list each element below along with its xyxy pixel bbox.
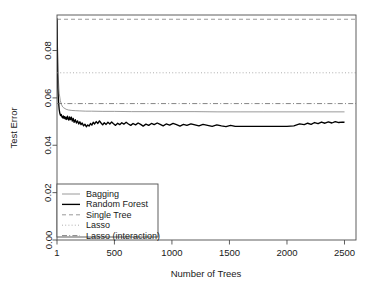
- x-tick-label: 1: [54, 247, 59, 258]
- y-axis-title: Test Error: [8, 107, 19, 148]
- legend-label: Random Forest: [86, 199, 149, 209]
- test-error-vs-trees-chart: 15001000150020002500 0.000.020.040.060.0…: [0, 0, 368, 294]
- y-tick-label: 0.00: [43, 231, 54, 250]
- x-tick-label: 500: [106, 247, 122, 258]
- y-tick-label: 0.02: [43, 183, 54, 202]
- y-tick-label: 0.08: [43, 41, 54, 60]
- x-axis-title: Number of Trees: [171, 268, 242, 279]
- x-tick-label: 1500: [219, 247, 240, 258]
- legend-label: Single Tree: [86, 210, 132, 220]
- x-axis: 15001000150020002500: [54, 240, 355, 258]
- legend-label: Lasso: [86, 220, 110, 230]
- x-tick-label: 2000: [276, 247, 297, 258]
- legend-label: Bagging: [86, 189, 119, 199]
- chart-figure: 15001000150020002500 0.000.020.040.060.0…: [0, 0, 368, 294]
- y-axis: 0.000.020.040.060.08: [43, 41, 58, 249]
- y-tick-label: 0.06: [43, 89, 54, 108]
- chart-legend[interactable]: BaggingRandom ForestSingle TreeLassoLass…: [57, 184, 160, 241]
- x-tick-label: 1000: [161, 247, 182, 258]
- legend-label: Lasso (interaction): [86, 231, 160, 241]
- y-tick-label: 0.04: [43, 136, 54, 155]
- x-tick-label: 2500: [334, 247, 355, 258]
